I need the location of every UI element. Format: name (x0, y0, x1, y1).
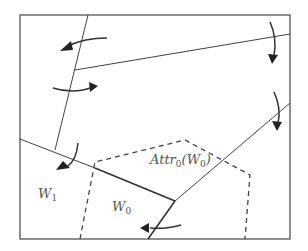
label-w0: W0 (112, 199, 131, 216)
slanted-vertical-boundary (55, 15, 88, 150)
arrow-mid-left-icon (53, 82, 98, 92)
solid-boundaries (20, 15, 290, 201)
label-w1: W1 (38, 186, 57, 203)
attractor-boundary-right (148, 201, 175, 239)
basin-partition-diagram: W1 W0 Attr0(W0) (0, 0, 308, 251)
attractor-boundary-top (95, 168, 175, 201)
arrow-bottom-icon (140, 223, 181, 233)
upper-diagonal-boundary (75, 34, 290, 70)
arrow-top-left-icon (60, 38, 107, 51)
arrow-lower-left-icon (56, 143, 78, 170)
arrow-top-right-icon (268, 22, 278, 64)
left-lower-boundary (20, 139, 95, 168)
label-attractor: Attr0(W0) (149, 152, 211, 169)
